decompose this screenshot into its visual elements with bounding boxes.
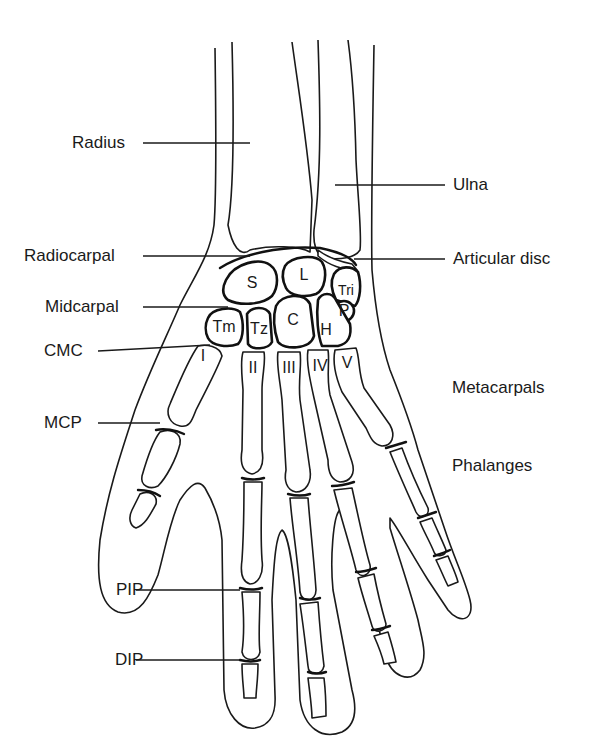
index-proximal-phalanx bbox=[241, 482, 262, 584]
thumb-distal-phalanx bbox=[130, 492, 156, 528]
metacarpal-I bbox=[168, 345, 222, 426]
label-dip: DIP bbox=[115, 650, 143, 670]
label-midcarpal: Midcarpal bbox=[45, 297, 119, 317]
label-mcp: MCP bbox=[44, 413, 82, 433]
label-cmc: CMC bbox=[44, 341, 83, 361]
little-proximal-phalanx bbox=[390, 448, 428, 516]
carpal-label-trapezoid: Tz bbox=[250, 320, 268, 338]
metacarpal-numeral-II: II bbox=[249, 359, 258, 377]
metacarpal-numeral-V: V bbox=[342, 354, 353, 372]
label-phalanges: Phalanges bbox=[452, 456, 532, 476]
carpal-label-capitate: C bbox=[287, 311, 299, 329]
ring-proximal-phalanx bbox=[334, 488, 370, 575]
ulna-bone bbox=[314, 40, 361, 259]
ring-middle-phalanx bbox=[358, 574, 386, 631]
index-mcp-joint bbox=[242, 478, 264, 480]
index-dip-joint bbox=[240, 660, 260, 662]
radius-bone bbox=[228, 42, 312, 252]
metacarpal-numeral-IV: IV bbox=[312, 357, 327, 375]
little-distal-phalanx bbox=[436, 556, 458, 586]
label-radiocarpal: Radiocarpal bbox=[24, 246, 115, 266]
index-middle-phalanx bbox=[242, 592, 260, 660]
thumb-proximal-phalanx bbox=[142, 431, 180, 488]
carpal-label-scaphoid: S bbox=[247, 274, 258, 292]
index-distal-phalanx bbox=[242, 664, 258, 698]
middle-middle-phalanx bbox=[300, 602, 324, 674]
carpal-label-hamate: H bbox=[320, 321, 332, 339]
middle-mcp-joint bbox=[288, 494, 310, 496]
middle-distal-phalanx bbox=[308, 678, 326, 718]
ring-distal-phalanx bbox=[374, 632, 396, 664]
carpal-label-triquetrum: Tri bbox=[338, 281, 354, 299]
label-pip: PIP bbox=[116, 580, 143, 600]
ring-mcp-joint bbox=[332, 482, 354, 486]
label-radius: Radius bbox=[72, 133, 125, 153]
carpal-label-pisiform: P bbox=[339, 302, 350, 320]
label-ulna: Ulna bbox=[453, 175, 488, 195]
carpal-label-lunate: L bbox=[300, 266, 309, 284]
carpal-label-trapezium: Tm bbox=[212, 318, 235, 336]
label-metacarpals: Metacarpals bbox=[452, 378, 545, 398]
index-pip-joint bbox=[240, 588, 262, 590]
metacarpal-numeral-I: I bbox=[201, 347, 205, 365]
hand-anatomy-diagram: Radius Radiocarpal Midcarpal CMC MCP PIP… bbox=[0, 0, 590, 742]
label-articular-disc: Articular disc bbox=[453, 249, 550, 269]
metacarpal-numeral-III: III bbox=[282, 359, 295, 377]
cmc-leader-line bbox=[98, 345, 210, 351]
